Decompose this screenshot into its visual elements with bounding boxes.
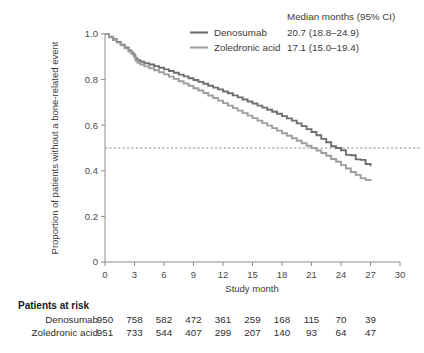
x-axis-tick-label: 21 [306,269,317,280]
risk-cell: 361 [215,314,231,325]
kaplan-meier-chart: 00.20.40.60.81.0 036912151821242730 Prop… [0,0,424,353]
risk-cell: 47 [365,327,376,338]
risk-cell: 472 [185,314,201,325]
x-axis-tick-label: 30 [395,269,406,280]
risk-cell: 544 [156,327,173,338]
risk-row-label: Zoledronic acid [32,327,98,338]
x-axis-tick-label: 27 [365,269,376,280]
x-axis-tick-label: 18 [277,269,288,280]
risk-cell: 115 [304,314,320,325]
x-axis-title: Study month [225,283,278,294]
legend-header: Median months (95% CI) [287,11,395,22]
risk-cell: 64 [336,327,347,338]
risk-cell: 70 [336,314,347,325]
risk-cell: 950 [97,314,114,325]
y-axis-tick-label: 0.2 [85,211,98,222]
legend-label-denosumab: Denosumab [214,27,267,38]
risk-row-label: Denosumab [45,314,98,325]
y-axis-title: Proportion of patients without a bone-re… [49,41,60,254]
x-axis-tick-label: 12 [218,269,229,280]
y-axis-tick-label: 0 [93,256,98,267]
risk-table-title: Patients at risk [18,300,90,311]
y-axis-tick-label: 0.8 [85,74,98,85]
survival-chart-figure: 00.20.40.60.81.0 036912151821242730 Prop… [0,0,424,353]
y-axis-tick-label: 0.4 [85,165,98,176]
risk-cell: 582 [156,314,172,325]
legend-label-zoledronic-acid: Zoledronic acid [214,42,280,53]
risk-cell: 758 [126,314,143,325]
risk-cell: 951 [97,327,113,338]
legend-value-zoledronic-acid: 17.1 (15.0–19.4) [287,42,359,53]
x-axis-tick-label: 15 [247,269,258,280]
x-axis-tick-label: 9 [191,269,196,280]
x-axis-tick-label: 24 [336,269,347,280]
x-axis-tick-label: 3 [132,269,137,280]
risk-cell: 259 [244,314,260,325]
y-axis-tick-label: 1.0 [85,28,98,39]
x-axis-tick-label: 6 [161,269,166,280]
risk-cell: 93 [306,327,317,338]
x-axis-tick-label: 0 [102,269,107,280]
risk-cell: 39 [365,314,376,325]
risk-cell: 299 [215,327,231,338]
y-axis-tick-label: 0.6 [85,120,98,131]
risk-cell: 733 [126,327,143,338]
risk-cell: 207 [244,327,260,338]
risk-cell: 168 [274,314,291,325]
risk-cell: 140 [274,327,291,338]
legend-value-denosumab: 20.7 (18.8–24.9) [287,27,359,38]
risk-cell: 407 [185,327,201,338]
